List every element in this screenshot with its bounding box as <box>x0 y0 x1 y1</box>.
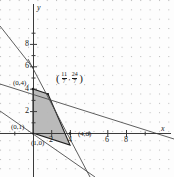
vertex-label-0-4: (0,4) <box>13 80 26 87</box>
fraction-x: 11 7 <box>60 72 68 84</box>
y-axis-label: y <box>37 4 41 12</box>
x-tick-label-2: 2 <box>49 136 53 144</box>
x-tick-label-6: 6 <box>105 136 109 144</box>
x-tick-label-4: 4 <box>68 136 72 144</box>
x-axis-label: x <box>161 125 165 133</box>
x-tick-label-8: 8 <box>124 136 128 144</box>
vertex-label-1-0: (1,0) <box>31 140 44 147</box>
paren-open: ( <box>56 73 60 84</box>
fraction-x-denominator: 7 <box>62 78 67 85</box>
vertex-label-fraction: ( 11 7 , 24 7 ) <box>56 72 83 84</box>
fraction-y: 24 7 <box>71 72 79 84</box>
y-tick-label-2: 2 <box>25 107 29 115</box>
fraction-y-denominator: 7 <box>72 78 77 85</box>
vertex-label-4-0: (4,0) <box>78 131 91 138</box>
vertex-label-0-1: (0,1) <box>11 124 24 131</box>
paren-close: ) <box>79 73 83 84</box>
y-tick-label-8: 8 <box>25 40 29 48</box>
graph-figure: y x 8 6 4 2 2 4 6 8 (0,4) (0,1) (1,0) (4… <box>0 0 174 177</box>
y-tick-label-6: 6 <box>25 62 29 70</box>
